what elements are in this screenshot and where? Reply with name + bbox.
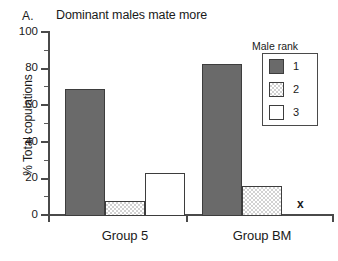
panel-label: A. (22, 9, 34, 23)
legend-swatch-rank3-icon (269, 105, 284, 120)
y-tick-label-80: 80 (0, 62, 38, 74)
x-axis-group-label-group5: Group 5 (65, 228, 185, 243)
legend-box: 1 2 3 (262, 53, 318, 126)
x-tick-middle (186, 216, 188, 222)
bar-group5-rank2 (105, 201, 145, 216)
legend-label-rank1: 1 (293, 61, 299, 72)
legend-label-rank3: 3 (293, 107, 299, 118)
y-axis-line (48, 31, 50, 216)
y-tick-minor-90 (44, 50, 48, 51)
legend-swatch-rank2-icon (269, 82, 284, 97)
y-tick-20 (41, 178, 48, 180)
legend-entry-rank3: 3 (269, 105, 299, 120)
x-tick-left (48, 216, 50, 222)
legend-title: Male rank (252, 40, 298, 52)
chart-title: Dominant males mate more (56, 8, 207, 22)
y-tick-minor-30 (44, 160, 48, 161)
bar-group5-rank3 (145, 173, 185, 216)
y-tick-100 (41, 31, 48, 33)
y-tick-80 (41, 68, 48, 70)
legend-entry-rank1: 1 (269, 59, 299, 74)
bar-group5-rank1 (65, 89, 105, 216)
y-tick-minor-50 (44, 123, 48, 124)
bar-groupbm-rank1 (202, 64, 242, 216)
y-tick-minor-70 (44, 86, 48, 87)
y-tick-label-100: 100 (0, 26, 38, 38)
y-tick-label-40: 40 (0, 136, 38, 148)
legend-swatch-rank1-icon (269, 59, 284, 74)
x-tick-right (332, 216, 334, 222)
y-tick-40 (41, 141, 48, 143)
x-axis-group-label-groupbm: Group BM (202, 228, 322, 243)
chart-figure: A. Dominant males mate more % Total copu… (0, 0, 338, 261)
y-tick-label-0: 0 (0, 209, 38, 221)
y-tick-minor-10 (44, 196, 48, 197)
y-tick-label-20: 20 (0, 172, 38, 184)
bar-groupbm-rank2 (242, 186, 282, 216)
missing-data-marker: x (297, 197, 304, 211)
y-tick-label-60: 60 (0, 99, 38, 111)
y-tick-0 (41, 214, 48, 216)
y-tick-60 (41, 104, 48, 106)
legend-entry-rank2: 2 (269, 82, 299, 97)
legend-label-rank2: 2 (293, 84, 299, 95)
